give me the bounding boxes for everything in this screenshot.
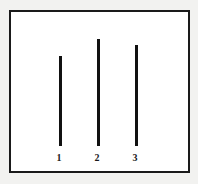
bar-1[interactable] xyxy=(59,56,62,146)
bar-label-2: 2 xyxy=(87,153,107,163)
plot-area: 1 2 3 xyxy=(11,12,188,171)
bar-3[interactable] xyxy=(135,45,138,146)
chart-screenshot: 1 2 3 xyxy=(0,0,198,184)
bar-label-3: 3 xyxy=(125,153,145,163)
plot-frame: 1 2 3 xyxy=(9,10,190,173)
bar-label-1: 1 xyxy=(49,153,69,163)
bar-2[interactable] xyxy=(97,39,100,146)
